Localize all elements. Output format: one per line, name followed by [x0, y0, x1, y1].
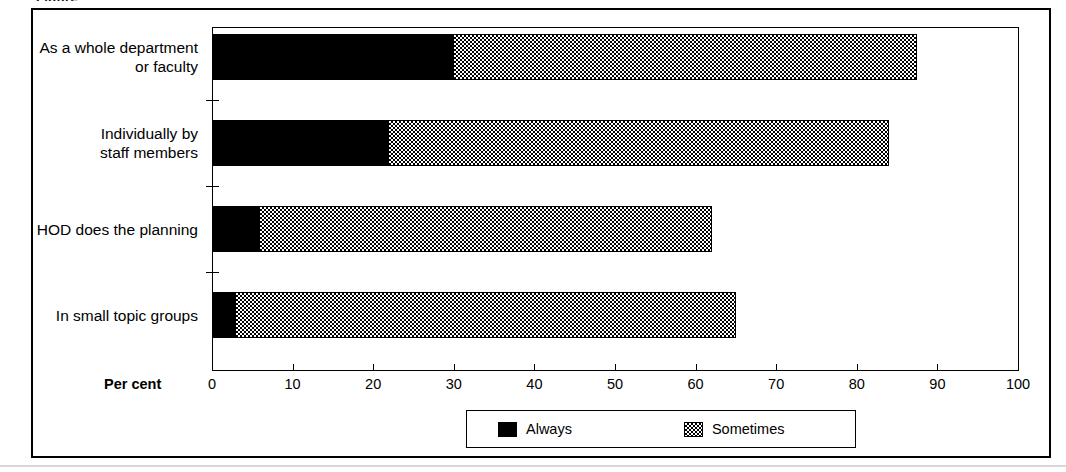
- bar-segment-always: [212, 120, 389, 166]
- plot-right-border: [1018, 27, 1019, 371]
- bar-segment-sometimes: [236, 292, 736, 338]
- bar-segment-sometimes: [260, 206, 711, 252]
- bar-stack: [212, 292, 736, 338]
- legend-item-sometimes: Sometimes: [684, 421, 785, 437]
- x-axis-tick-label: 0: [208, 376, 216, 392]
- x-axis-tick-label: 30: [446, 376, 462, 392]
- category-label-line: staff members: [8, 143, 198, 162]
- x-axis-tick: [857, 364, 858, 371]
- bar-segment-always: [212, 292, 236, 338]
- x-axis-tick: [696, 364, 697, 371]
- bar-segment-always: [212, 34, 454, 80]
- x-axis-tick-label: 50: [607, 376, 623, 392]
- bar-segment-sometimes: [454, 34, 917, 80]
- category-label: Individually bystaff members: [8, 124, 198, 162]
- y-axis-tick: [206, 100, 219, 101]
- page-bottom-edge: [0, 465, 1066, 467]
- x-axis-tick-label: 10: [285, 376, 301, 392]
- bar-stack: [212, 206, 712, 252]
- legend-swatch-always: [498, 422, 517, 437]
- x-axis-tick-label: 20: [365, 376, 381, 392]
- legend-label-always: Always: [526, 421, 572, 437]
- category-label: As a whole departmentor faculty: [8, 38, 198, 76]
- x-axis-tick: [534, 364, 535, 371]
- legend-swatch-sometimes: [684, 422, 703, 437]
- x-axis-title: Per cent: [104, 376, 161, 392]
- x-axis-tick: [776, 364, 777, 371]
- bar-stack: [212, 34, 917, 80]
- x-axis-tick: [615, 364, 616, 371]
- x-axis-tick-label: 100: [1006, 376, 1030, 392]
- category-label-line: In small topic groups: [8, 306, 198, 325]
- x-axis-tick-label: 80: [849, 376, 865, 392]
- x-axis-tick-label: 60: [688, 376, 704, 392]
- category-label: In small topic groups: [8, 306, 198, 325]
- x-axis-tick: [454, 364, 455, 371]
- y-axis-tick: [206, 272, 219, 273]
- x-axis-tick: [373, 364, 374, 371]
- x-axis-tick: [293, 364, 294, 371]
- x-axis-tick: [937, 364, 938, 371]
- plot-top-border: [212, 27, 1019, 28]
- category-label-line: As a whole department: [8, 38, 198, 57]
- x-axis-tick-label: 40: [526, 376, 542, 392]
- category-label-line: HOD does the planning: [8, 220, 198, 239]
- legend-label-sometimes: Sometimes: [712, 421, 785, 437]
- legend-item-always: Always: [498, 421, 572, 437]
- x-axis-tick-label: 70: [768, 376, 784, 392]
- chart-legend: Always Sometimes: [466, 410, 856, 448]
- bar-segment-sometimes: [389, 120, 889, 166]
- category-label-line: or faculty: [8, 57, 198, 76]
- category-label-line: Individually by: [8, 124, 198, 143]
- y-axis-tick: [206, 186, 219, 187]
- x-axis-tick-label: 90: [929, 376, 945, 392]
- bar-stack: [212, 120, 889, 166]
- category-label: HOD does the planning: [8, 220, 198, 239]
- bar-segment-always: [212, 206, 260, 252]
- figure-caption-stub: Figure: [36, 0, 78, 1]
